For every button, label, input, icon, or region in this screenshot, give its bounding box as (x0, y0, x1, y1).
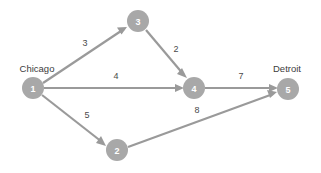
node-5[interactable]: 5 (277, 78, 299, 100)
edge-line-1-2 (42, 95, 102, 142)
edge-2-5[interactable] (128, 90, 277, 147)
node-4[interactable]: 4 (183, 77, 205, 99)
city-labels-group: Chicago Detroit (20, 63, 302, 74)
city-label-chicago: Chicago (20, 63, 55, 74)
edge-line-2-5 (128, 94, 273, 147)
edge-4-5[interactable] (205, 84, 278, 92)
edge-weight-2-5: 8 (194, 105, 199, 115)
edge-weight-3-4: 2 (173, 44, 178, 54)
edge-3-4[interactable] (146, 30, 187, 78)
node-1[interactable]: 1 (22, 77, 44, 99)
edge-weight-1-3: 3 (82, 38, 87, 48)
edge-1-4[interactable] (44, 84, 184, 92)
diagram-canvas: 3 2 4 5 8 7 1 2 3 4 (0, 0, 321, 173)
node-label-4: 4 (191, 84, 196, 94)
node-label-2: 2 (114, 146, 119, 156)
network-diagram: 3 2 4 5 8 7 1 2 3 4 (0, 0, 321, 173)
edge-weight-4-5: 7 (238, 71, 243, 81)
node-label-5: 5 (285, 85, 290, 95)
edge-weight-1-2: 5 (84, 110, 89, 120)
node-label-1: 1 (30, 84, 35, 94)
edges-group (42, 27, 278, 147)
edge-weight-1-4: 4 (113, 71, 118, 81)
city-label-detroit: Detroit (273, 63, 301, 74)
node-label-3: 3 (135, 17, 140, 27)
edge-1-2[interactable] (42, 95, 106, 146)
node-2[interactable]: 2 (106, 139, 128, 161)
nodes-group: 1 2 3 4 5 (22, 10, 299, 161)
node-3[interactable]: 3 (127, 10, 149, 32)
arrowhead-1-4 (175, 84, 184, 92)
arrowhead-4-5 (269, 84, 278, 92)
